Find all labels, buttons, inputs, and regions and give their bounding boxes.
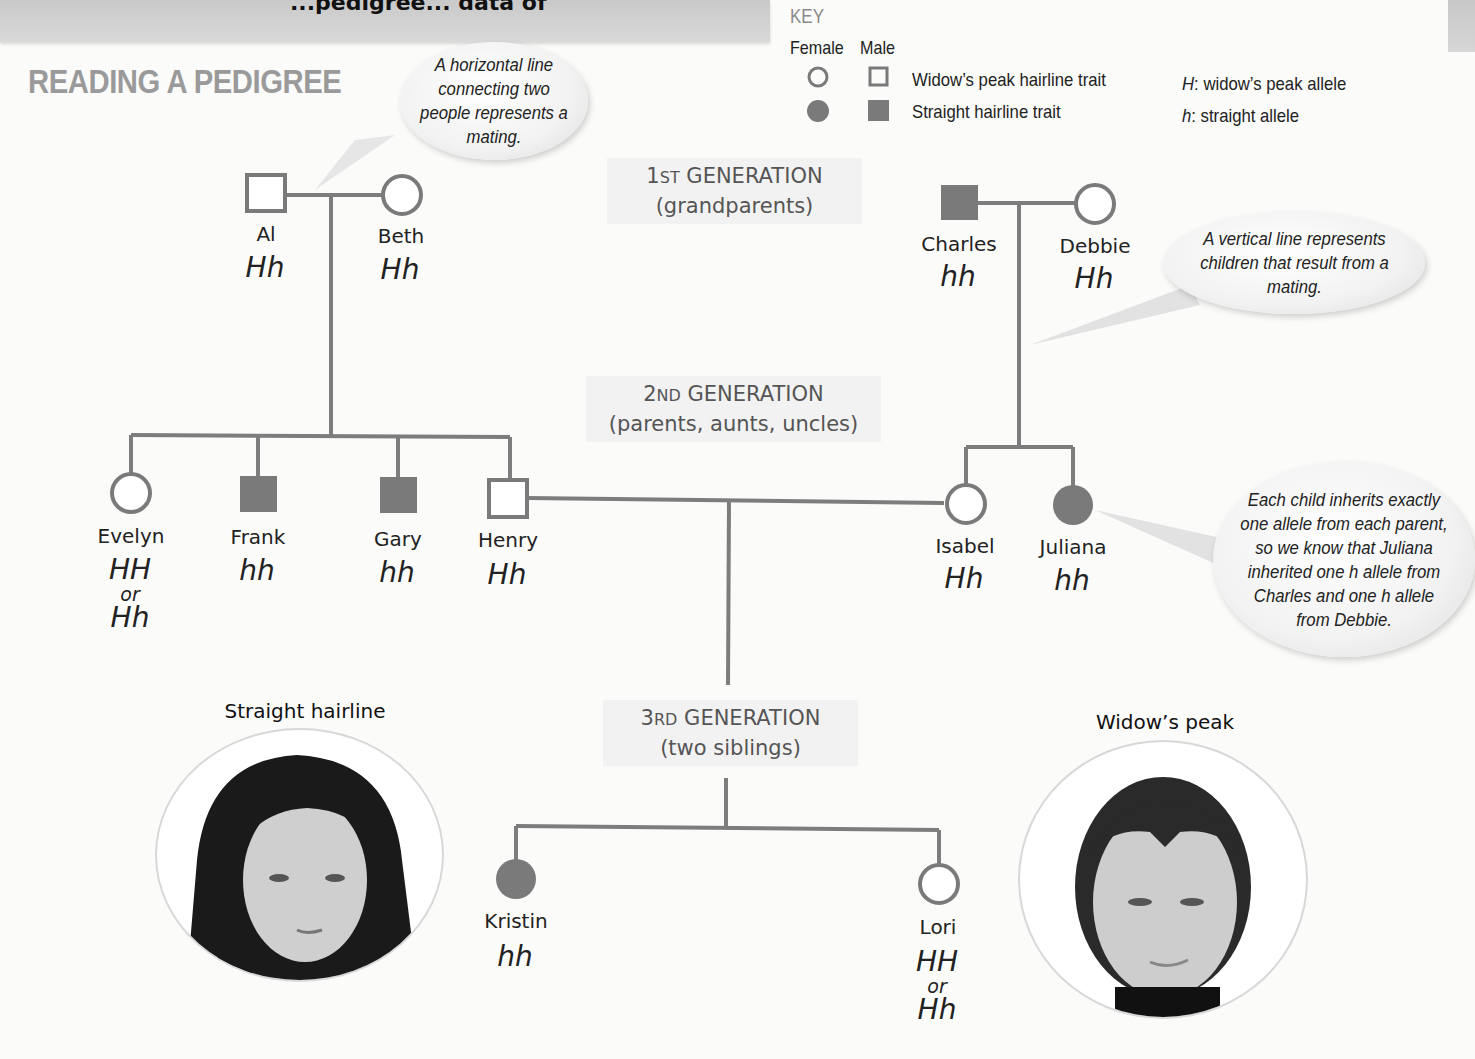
beth-female-unaffected-icon — [383, 176, 421, 214]
genotype-al: Hh — [195, 254, 335, 282]
photo-label-widows-peak: Widow’s peak — [1015, 710, 1315, 734]
person-name-lori: Lori — [868, 915, 1008, 939]
person-name-al: Al — [196, 222, 336, 246]
person-name-debbie: Debbie — [1025, 234, 1165, 258]
photo-label-straight: Straight hairline — [155, 699, 455, 723]
lori-female-unaffected-icon — [920, 865, 958, 903]
genotype-kristin: hh — [445, 943, 585, 971]
genotype-juliana: hh — [1002, 567, 1142, 595]
juliana-female-affected-icon — [1053, 485, 1093, 525]
genotype-beth: Hh — [330, 256, 470, 284]
person-name-juliana: Juliana — [1003, 535, 1143, 559]
person-name-frank: Frank — [188, 525, 328, 549]
al-male-unaffected-icon — [247, 175, 285, 211]
evelyn-female-unaffected-icon — [112, 474, 150, 512]
genotype-lori: HH or Hh — [867, 948, 1007, 1024]
person-name-kristin: Kristin — [446, 909, 586, 933]
genotype-charles: hh — [888, 263, 1028, 291]
gary-male-affected-icon — [380, 477, 417, 513]
person-name-henry: Henry — [438, 528, 578, 552]
photo-widows-peak — [1018, 740, 1308, 1019]
genotype-frank: hh — [187, 557, 327, 585]
henry-male-unaffected-icon — [489, 480, 527, 517]
genotype-henry: Hh — [437, 561, 577, 589]
person-name-beth: Beth — [331, 224, 471, 248]
person-name-evelyn: Evelyn — [61, 524, 201, 548]
charles-male-affected-icon — [941, 185, 978, 220]
frank-male-affected-icon — [240, 476, 277, 512]
photo-straight-hairline — [155, 728, 444, 982]
debbie-female-unaffected-icon — [1076, 185, 1114, 223]
face-widows-peak-icon — [1020, 742, 1306, 1017]
isabel-female-unaffected-icon — [947, 485, 985, 523]
genotype-evelyn: HH or Hh — [60, 556, 200, 632]
person-name-charles: Charles — [889, 232, 1029, 256]
genotype-debbie: Hh — [1024, 265, 1164, 293]
face-straight-hairline-icon — [157, 730, 442, 980]
kristin-female-affected-icon — [496, 859, 536, 899]
